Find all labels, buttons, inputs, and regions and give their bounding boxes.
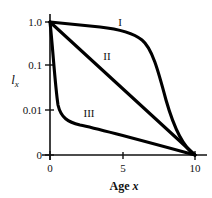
survivorship-curve-figure: 1.0 0.1 0.01 0 0 5 10 I II III Age x lx bbox=[0, 0, 212, 198]
curve-label-III: III bbox=[84, 107, 95, 119]
x-tick-label-5: 5 bbox=[120, 162, 126, 174]
y-tick-label-0.1: 0.1 bbox=[28, 59, 42, 71]
x-tick-label-10: 10 bbox=[190, 162, 202, 174]
curve-label-II: II bbox=[103, 50, 111, 62]
curve-label-I: I bbox=[118, 16, 122, 28]
y-axis-title-subscript: x bbox=[14, 79, 19, 89]
y-tick-label-0.01: 0.01 bbox=[23, 104, 42, 116]
x-axis-title-italic: x bbox=[132, 179, 139, 193]
x-axis-title-plain: Age bbox=[110, 179, 131, 193]
y-axis-title: lx bbox=[11, 72, 19, 89]
y-tick-label-1.0: 1.0 bbox=[28, 16, 42, 28]
y-tick-label-0: 0 bbox=[37, 149, 43, 161]
x-axis-title: Age x bbox=[110, 179, 139, 193]
x-tick-label-0: 0 bbox=[47, 162, 53, 174]
chart-canvas: 1.0 0.1 0.01 0 0 5 10 I II III Age x lx bbox=[0, 0, 212, 198]
